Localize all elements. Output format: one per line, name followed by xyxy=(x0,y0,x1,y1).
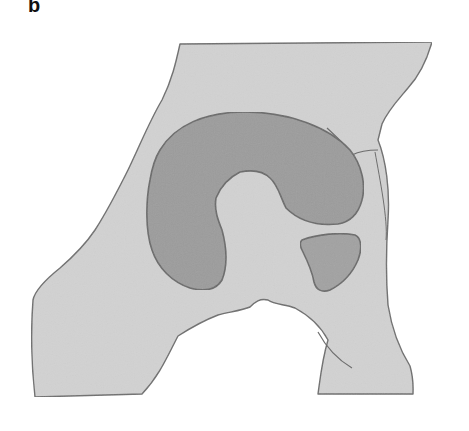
diagram-canvas xyxy=(0,0,469,431)
outer-region xyxy=(32,42,432,397)
